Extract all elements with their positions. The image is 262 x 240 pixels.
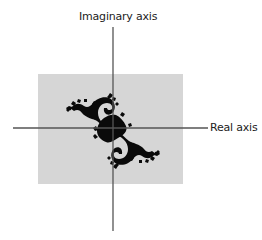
- complex-plane-diagram: [0, 0, 262, 240]
